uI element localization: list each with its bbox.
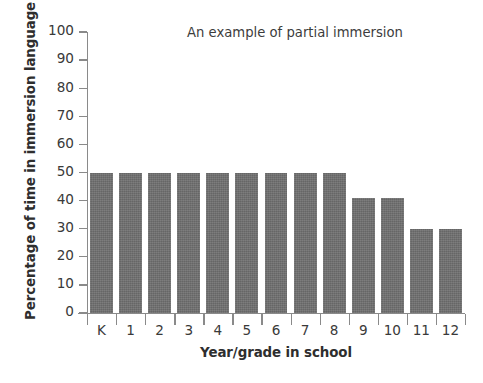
y-tick-label: 0: [34, 303, 74, 319]
y-tick-label: 80: [34, 79, 74, 95]
x-tick: [465, 314, 466, 325]
y-tick-label: 20: [34, 247, 74, 263]
y-tick-label: 30: [34, 219, 74, 235]
bar: [90, 173, 113, 314]
y-tick: 90: [79, 59, 87, 60]
x-tick-label: 2: [145, 322, 174, 338]
x-tick-label: 11: [407, 322, 436, 338]
bar: [235, 173, 258, 314]
x-tick-label: 1: [116, 322, 145, 338]
chart-figure: An example of partial immersion Percenta…: [0, 0, 483, 383]
y-axis-line: [87, 32, 88, 313]
y-tick: 20: [79, 256, 87, 257]
x-tick-label: 8: [320, 322, 349, 338]
y-tick-label: 70: [34, 107, 74, 123]
bar: [148, 173, 171, 314]
x-tick-label: 12: [436, 322, 465, 338]
x-tick-label: 10: [378, 322, 407, 338]
y-tick: 30: [79, 228, 87, 229]
y-tick: 100: [79, 31, 87, 32]
bar: [352, 198, 375, 313]
y-tick-label: 90: [34, 50, 74, 66]
bar: [294, 173, 317, 314]
bar: [265, 173, 288, 314]
y-tick: 70: [79, 116, 87, 117]
y-tick-label: 10: [34, 275, 74, 291]
y-tick: 40: [79, 200, 87, 201]
plot-area: 0102030405060708090100 K123456789101112: [87, 32, 465, 313]
y-tick-label: 100: [34, 22, 74, 38]
y-tick: 80: [79, 88, 87, 89]
bar: [119, 173, 142, 314]
y-tick: 0: [79, 312, 87, 313]
bar: [177, 173, 200, 314]
bar: [410, 229, 433, 313]
x-tick-label: 7: [291, 322, 320, 338]
x-tick-label: 5: [232, 322, 261, 338]
y-tick: 50: [79, 172, 87, 173]
x-axis-title: Year/grade in school: [87, 345, 465, 360]
bar: [323, 173, 346, 314]
y-tick-label: 50: [34, 163, 74, 179]
x-tick-label: K: [87, 322, 116, 338]
y-tick: 10: [79, 284, 87, 285]
y-tick: 60: [79, 144, 87, 145]
bar: [206, 173, 229, 314]
x-tick-label: 3: [174, 322, 203, 338]
y-tick-label: 40: [34, 191, 74, 207]
bar: [439, 229, 462, 313]
bar: [381, 198, 404, 313]
x-tick-label: 6: [261, 322, 290, 338]
y-tick-label: 60: [34, 135, 74, 151]
x-tick-label: 4: [203, 322, 232, 338]
x-tick-label: 9: [349, 322, 378, 338]
